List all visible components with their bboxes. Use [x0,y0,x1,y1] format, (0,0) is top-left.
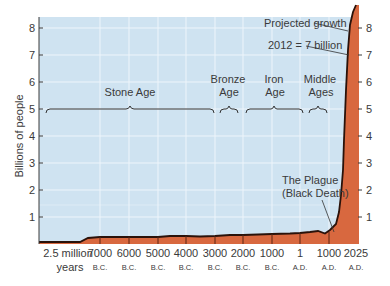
y-tick-right-2: 2 [366,184,372,196]
middle-ages-label-1: Middle [304,73,336,85]
x-label-top-8: 1 [297,247,303,259]
y-tick-right-6: 6 [366,76,372,88]
x-label-bottom-9: A.D. [322,263,337,272]
x-label-top-9: 1000 [317,247,341,259]
iron-age-label-2: Age [265,86,285,98]
x-label-bottom-7: B.C. [265,263,280,272]
y-axis-title: Billions of people [13,94,25,177]
x-label-top-4: 4000 [174,247,198,259]
y-tick-1: 1 [29,211,35,223]
x-label-bottom-10: A.D. [349,263,364,272]
population-growth-chart: 8 7 6 5 4 3 2 1 8 7 6 5 4 3 2 1 Billions… [0,0,390,286]
y-tick-2: 2 [29,184,35,196]
2012-label: 2012 = 7 billion [268,39,342,51]
y-tick-4: 4 [29,130,35,142]
y-tick-labels-right: 8 7 6 5 4 3 2 1 [366,22,372,223]
plague-label-1: The Plague [282,174,338,186]
y-tick-right-3: 3 [366,157,372,169]
x-label-top-10: 2025 [344,247,368,259]
y-tick-right-5: 5 [366,103,372,115]
x-label-bottom-3: B.C. [151,263,166,272]
stone-age-label: Stone Age [105,86,156,98]
y-tick-8: 8 [29,22,35,34]
y-tick-7: 7 [29,49,35,61]
x-label-top-3: 5000 [146,247,170,259]
x-label-top-0: 2.5 million [43,247,93,259]
x-label-bottom-4: B.C. [179,263,194,272]
y-tick-6: 6 [29,76,35,88]
plague-label-2: (Black Death) [282,187,349,199]
plot-background [39,17,359,244]
x-label-top-7: 1000 [260,247,284,259]
y-tick-right-7: 7 [366,49,372,61]
x-label-top-5: 3000 [203,247,227,259]
bronze-age-label-2: Age [219,86,239,98]
y-tick-5: 5 [29,103,35,115]
x-label-bottom-6: B.C. [236,263,251,272]
x-tick-labels: 2.5 million 7000 6000 5000 4000 3000 200… [43,247,368,273]
x-label-top-1: 7000 [88,247,112,259]
y-tick-right-8: 8 [366,22,372,34]
x-label-bottom-0: years [57,261,84,273]
projected-growth-label: Projected growth [264,17,347,29]
y-tick-right-1: 1 [366,211,372,223]
y-tick-labels-left: 8 7 6 5 4 3 2 1 [29,22,35,223]
y-tick-3: 3 [29,157,35,169]
iron-age-label-1: Iron [265,73,284,85]
middle-ages-label-2: Ages [308,86,334,98]
x-label-bottom-2: B.C. [122,263,137,272]
y-tick-right-4: 4 [366,130,372,142]
x-label-bottom-8: A.D. [293,263,308,272]
bronze-age-label-1: Bronze [211,73,246,85]
x-label-bottom-5: B.C. [208,263,223,272]
x-label-bottom-1: B.C. [93,263,108,272]
x-label-top-6: 2000 [231,247,255,259]
x-label-top-2: 6000 [117,247,141,259]
